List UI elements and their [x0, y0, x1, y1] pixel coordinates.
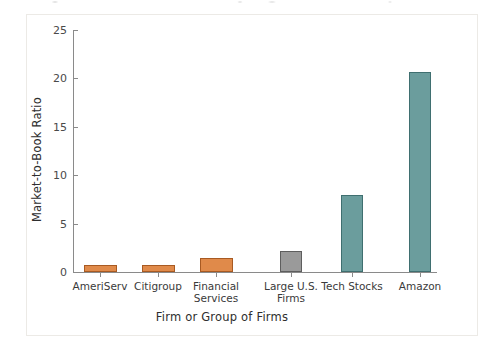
bar-financial-services: [200, 258, 233, 272]
x-tick-financial-services: [216, 273, 217, 277]
x-tick-label-amazon: Amazon: [380, 280, 460, 292]
x-tick-ameriserv: [100, 273, 101, 277]
y-tick-5: [74, 224, 78, 225]
y-axis-line: [73, 30, 74, 273]
y-tick-label-15: 15: [41, 122, 67, 133]
x-tick-amazon: [420, 273, 421, 277]
y-tick-20: [74, 78, 78, 79]
x-tick-large-us-firms: [291, 273, 292, 277]
bar-large-us-firms: [280, 251, 302, 272]
x-axis-line: [73, 272, 437, 273]
bar-amazon: [409, 72, 431, 272]
bar-tech-stocks: [341, 195, 363, 272]
y-tick-label-20: 20: [41, 73, 67, 84]
x-axis-title: Firm or Group of Firms: [0, 310, 464, 324]
bar-chart: 25 20 15 10 5 0 Market-to-Book Ratio Ame…: [0, 0, 484, 350]
x-tick-tech-stocks: [352, 273, 353, 277]
bar-citigroup: [142, 265, 175, 272]
y-tick-10: [74, 175, 78, 176]
y-axis-title: Market-to-Book Ratio: [30, 97, 44, 222]
y-tick-15: [74, 127, 78, 128]
x-tick-label-financial-services: Financial Services: [176, 280, 256, 304]
y-tick-label-5: 5: [41, 219, 67, 230]
x-tick-citigroup: [158, 273, 159, 277]
y-tick-label-25: 25: [41, 25, 67, 36]
bar-ameriserv: [84, 265, 117, 272]
y-tick-label-10: 10: [41, 170, 67, 181]
y-tick-label-0: 0: [41, 267, 67, 278]
y-tick-25: [74, 30, 78, 31]
